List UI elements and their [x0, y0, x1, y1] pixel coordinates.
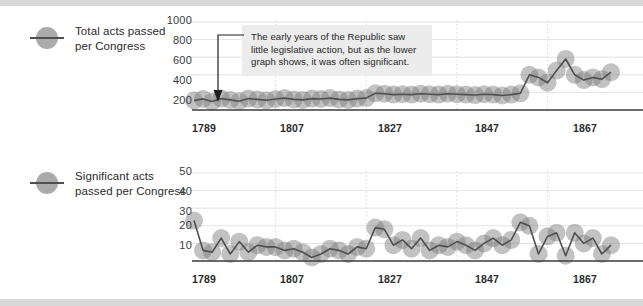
x-tick-1867: 1867 [573, 273, 597, 285]
x-tick-1789: 1789 [192, 273, 216, 285]
circle-with-line-icon [30, 25, 64, 51]
legend-significant-acts: Significant acts passed per Congress [30, 169, 186, 198]
y-tick-1000: 1000 [166, 14, 192, 26]
y-tick-10: 10 [166, 239, 192, 251]
y-tick-40: 40 [166, 185, 192, 197]
x-tick-1827: 1827 [378, 273, 402, 285]
y-tick-50: 50 [166, 165, 192, 177]
line-chart-significant-acts [194, 171, 643, 267]
y-tick-200: 200 [166, 94, 192, 106]
y-tick-400: 400 [166, 74, 192, 86]
x-tick-1807: 1807 [280, 273, 304, 285]
elbow-arrow-down-icon [206, 30, 246, 106]
circle-with-line-icon [30, 170, 64, 196]
legend-total-acts: Total acts passed per Congress [30, 24, 166, 53]
plot-area-significant-acts: 50 40 30 20 10 1789 1807 1827 1847 1867 [194, 171, 643, 267]
x-tick-1827: 1827 [378, 122, 402, 134]
y-tick-20: 20 [166, 219, 192, 231]
legend-label-total-acts: Total acts passed per Congress [75, 24, 166, 53]
chart-card: Total acts passed per Congress 1000 800 … [0, 6, 643, 299]
y-tick-800: 800 [166, 34, 192, 46]
x-tick-1847: 1847 [475, 273, 499, 285]
annotation-callout: The early years of the Republic saw litt… [242, 25, 432, 76]
y-tick-600: 600 [166, 54, 192, 66]
x-tick-1867: 1867 [573, 122, 597, 134]
y-tick-30: 30 [166, 205, 192, 217]
x-tick-1789: 1789 [192, 122, 216, 134]
x-tick-1847: 1847 [475, 122, 499, 134]
annotation-text: The early years of the Republic saw litt… [251, 31, 423, 69]
x-tick-1807: 1807 [280, 122, 304, 134]
